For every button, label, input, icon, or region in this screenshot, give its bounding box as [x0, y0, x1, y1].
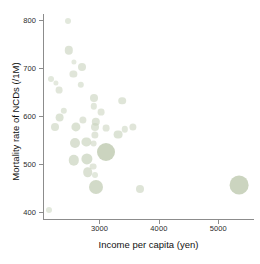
data-point — [91, 131, 98, 138]
data-point — [78, 63, 86, 71]
data-point — [114, 130, 123, 139]
data-point — [98, 109, 105, 116]
data-point — [51, 123, 59, 131]
data-point — [136, 185, 144, 193]
x-tick-label-5000: 5000 — [198, 224, 238, 233]
data-point — [118, 97, 126, 105]
data-point — [90, 103, 96, 109]
x-axis-spine — [43, 219, 254, 220]
data-point — [83, 168, 93, 178]
bubble-chart-figure: 400500600700800 300040005000 Income per … — [0, 0, 260, 264]
data-point — [70, 70, 77, 77]
data-point — [78, 82, 84, 88]
data-point — [97, 143, 115, 161]
x-tick-label-3000: 3000 — [79, 224, 119, 233]
data-point — [53, 81, 58, 86]
y-axis-title: Mortality rate of NCDs (/1M) — [10, 17, 21, 227]
data-point — [91, 123, 99, 131]
data-point — [70, 138, 80, 148]
data-point — [89, 180, 103, 194]
data-point — [69, 155, 79, 165]
x-axis-title: Income per capita (yen) — [43, 239, 254, 250]
data-point — [230, 176, 249, 195]
data-point — [90, 94, 98, 102]
data-points-layer — [43, 14, 254, 219]
data-point — [92, 172, 98, 178]
data-point — [72, 122, 81, 131]
data-point — [122, 126, 128, 132]
data-point — [90, 140, 97, 147]
data-point — [65, 18, 71, 24]
data-point — [64, 46, 72, 54]
data-point — [56, 86, 63, 93]
data-point — [103, 125, 110, 132]
x-tick-label-4000: 4000 — [139, 224, 179, 233]
data-point — [71, 59, 76, 64]
data-point — [129, 123, 136, 130]
data-point — [79, 116, 86, 123]
data-point — [46, 207, 52, 213]
data-point — [55, 113, 64, 122]
plot-area — [43, 14, 254, 219]
